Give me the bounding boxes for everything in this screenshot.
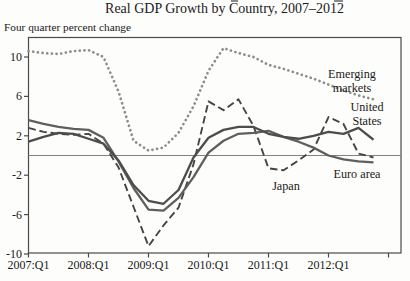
x-tick-label: 2008:Q1 [68, 258, 110, 272]
series-label-emerging-markets: Emerging [328, 67, 376, 81]
x-tick-label: 2010:Q1 [188, 258, 230, 272]
x-tick-label: 2009:Q1 [128, 258, 170, 272]
series-label-japan: Japan [272, 179, 300, 193]
series-label-united-states: United [350, 100, 383, 114]
y-tick-label: -6 [12, 208, 22, 222]
series-label-euro-area: Euro area [333, 167, 381, 181]
chart-canvas: 1062-2-6-102007:Q12008:Q12009:Q12010:Q12… [0, 0, 410, 281]
series-label-united-states: States [352, 114, 381, 128]
y-tick-label: 10 [10, 50, 22, 64]
x-tick-label: 2012:Q1 [308, 258, 350, 272]
y-tick-label: 2 [16, 129, 22, 143]
series-line-japan [29, 99, 374, 246]
y-tick-label: -2 [12, 168, 22, 182]
y-tick-label: 6 [16, 89, 22, 103]
series-label-emerging-markets: markets [333, 81, 372, 95]
x-tick-label: 2011:Q1 [248, 258, 290, 272]
x-tick-label: 2007:Q1 [8, 258, 50, 272]
